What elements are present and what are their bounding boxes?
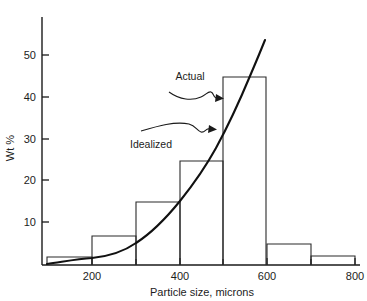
particle-size-distribution-chart: 10 20 30 40 50 200 400 600 800 Particle … — [0, 0, 367, 301]
y-axis-title: Wt % — [4, 135, 16, 161]
x-axis-title: Particle size, microns — [150, 286, 254, 298]
x-tick-label-400: 400 — [171, 270, 189, 282]
y-tick-label-40: 40 — [24, 91, 36, 103]
y-tick-label-20: 20 — [24, 174, 36, 186]
annotation-actual-label: Actual — [175, 70, 204, 82]
annotation-idealized-label: Idealized — [130, 138, 172, 150]
y-tick-label-50: 50 — [24, 49, 36, 61]
x-tick-label-200: 200 — [83, 270, 101, 282]
x-tick-label-600: 600 — [258, 270, 276, 282]
y-tick-label-30: 30 — [24, 133, 36, 145]
x-tick-label-800: 800 — [346, 270, 364, 282]
chart-figure: 10 20 30 40 50 200 400 600 800 Particle … — [0, 0, 367, 301]
y-tick-label-10: 10 — [24, 216, 36, 228]
